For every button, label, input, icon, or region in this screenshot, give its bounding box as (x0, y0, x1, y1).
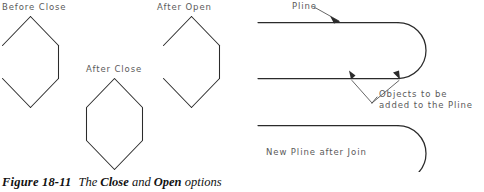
hexagon-after-open-edge-top-right (192, 17, 220, 46)
label-objects-line-1: Objects to be (379, 89, 447, 100)
joined-pline-arc (398, 126, 426, 173)
label-before-close: Before Close (2, 2, 66, 13)
hexagon-after-open-edge-top-left (164, 17, 192, 46)
figure-18-11-caption-part3: options (185, 175, 222, 189)
pline-arc (398, 23, 426, 79)
figure-18-11-caption-keyword2: Open (154, 175, 182, 189)
hexagon-after-open-edge-bottom-left (164, 79, 192, 108)
label-pline: Pline (292, 1, 317, 12)
hexagon-before-close (3, 17, 59, 108)
pline-existing (258, 23, 426, 79)
hexagon-after-open-edge-bottom-right (192, 79, 220, 108)
figure-18-11-caption-keyword1: Close (100, 175, 128, 189)
figure-18-11-caption-number: Figure 18-11 (2, 175, 71, 189)
label-after-close: After Close (86, 64, 142, 75)
figure-sheet: Before Close After Close After Open Figu… (0, 0, 484, 192)
figure-18-11-caption-part2: and (132, 175, 151, 189)
label-new-pline-after-join: New Pline after Join (266, 147, 367, 158)
hexagon-before-close-edge-top-left (3, 17, 31, 46)
figure-18-11-caption: Figure 18-11The Close and Open options (2, 175, 222, 190)
label-after-open: After Open (157, 2, 212, 13)
hexagon-before-close-edge-bottom-left (3, 79, 31, 108)
figure-18-11-panel: Before Close After Close After Open Figu… (0, 0, 242, 192)
hexagon-before-close-edge-top-right (31, 17, 59, 46)
figure-18-11-drawing (0, 0, 242, 172)
hexagon-after-close-outline (87, 79, 143, 170)
hexagon-after-open (164, 17, 220, 108)
hexagon-after-close (87, 79, 143, 170)
hexagon-before-close-edge-bottom-right (31, 79, 59, 108)
figure-18-12-panel: Pline Objects to be added to the Pline N… (242, 0, 484, 192)
figure-18-11-caption-part1: The (78, 175, 97, 189)
label-objects-line-2: added to the Pline (379, 100, 473, 111)
leader-object-left-line (352, 81, 372, 104)
